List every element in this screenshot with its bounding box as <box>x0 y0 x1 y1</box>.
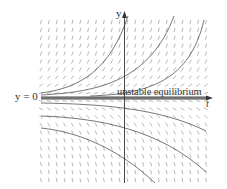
slope-mark <box>197 52 199 56</box>
slope-mark <box>64 44 65 48</box>
slope-mark <box>182 60 184 64</box>
slope-mark <box>95 138 97 142</box>
slope-mark <box>88 170 89 174</box>
slope-mark <box>204 84 207 87</box>
slope-mark <box>142 138 144 142</box>
slope-mark <box>102 115 105 118</box>
slope-mark <box>111 138 113 142</box>
slope-mark <box>174 170 175 174</box>
slope-mark <box>198 170 199 174</box>
slope-mark <box>48 20 49 24</box>
slope-mark <box>157 108 161 110</box>
slope-mark <box>56 44 57 48</box>
slope-mark <box>135 52 137 56</box>
slope-mark <box>188 101 192 102</box>
slope-mark <box>110 76 113 79</box>
slope-mark <box>127 28 128 32</box>
slope-mark <box>56 68 58 72</box>
slope-mark <box>72 138 74 142</box>
slope-mark <box>48 170 49 174</box>
slope-mark <box>80 154 81 158</box>
slope-mark <box>174 28 175 32</box>
slope-mark <box>158 146 159 150</box>
slope-mark <box>72 178 73 182</box>
slope-mark <box>40 28 41 32</box>
slope-mark <box>143 36 144 40</box>
slope-mark <box>119 60 121 64</box>
slope-mark <box>88 162 89 166</box>
slope-mark <box>64 146 65 150</box>
slope-mark <box>119 138 121 142</box>
slope-mark <box>71 123 73 127</box>
slope-mark <box>78 101 82 102</box>
slope-mark <box>190 154 191 158</box>
slope-mark <box>111 36 112 40</box>
slope-mark <box>111 28 112 32</box>
slope-mark <box>150 68 152 72</box>
slope-mark <box>166 131 168 135</box>
slope-mark <box>189 138 191 142</box>
slope-mark <box>95 52 97 56</box>
slope-mark <box>135 146 136 150</box>
slope-mark <box>198 28 199 32</box>
slope-mark <box>143 178 144 182</box>
slope-mark <box>190 146 191 150</box>
slope-mark <box>126 123 128 127</box>
slope-mark <box>126 115 129 118</box>
slope-mark <box>190 162 191 166</box>
slope-mark <box>119 20 120 24</box>
slope-mark <box>103 36 104 40</box>
slope-mark <box>40 44 41 48</box>
slope-mark <box>118 68 120 72</box>
slope-mark <box>103 178 104 182</box>
y-axis-arrow-icon <box>122 11 127 18</box>
slope-mark <box>127 146 128 150</box>
slope-mark <box>40 52 42 56</box>
slope-mark <box>72 28 73 32</box>
slope-mark <box>111 131 113 135</box>
slope-mark <box>150 123 152 127</box>
slope-mark <box>158 20 159 24</box>
slope-mark <box>47 92 51 93</box>
slope-mark <box>158 68 160 72</box>
slope-mark <box>206 20 207 24</box>
slope-mark <box>40 68 42 72</box>
slope-mark <box>166 170 167 174</box>
slope-mark <box>48 131 50 135</box>
slope-mark <box>72 162 73 166</box>
slope-mark <box>56 36 57 40</box>
slope-mark <box>166 138 168 142</box>
slope-mark <box>174 162 175 166</box>
slope-mark <box>172 101 176 102</box>
slope-mark <box>189 131 191 135</box>
slope-mark <box>143 154 144 158</box>
slope-mark <box>40 36 41 40</box>
slope-mark <box>151 170 152 174</box>
slope-mark <box>47 76 50 79</box>
slope-mark <box>166 52 168 56</box>
slope-mark <box>141 108 145 110</box>
slope-mark <box>188 108 192 110</box>
solution-curve-upper-2 <box>41 16 174 95</box>
slope-mark <box>205 131 207 135</box>
slope-mark <box>173 108 177 110</box>
slope-mark <box>41 170 42 174</box>
slope-mark <box>166 60 168 64</box>
slope-mark <box>182 52 184 56</box>
slope-mark <box>87 52 89 56</box>
slope-mark <box>127 178 128 182</box>
slope-mark <box>64 131 66 135</box>
slope-mark <box>127 36 128 40</box>
slope-mark <box>150 44 151 48</box>
slope-mark <box>103 52 105 56</box>
slope-mark <box>117 101 121 102</box>
slope-mark <box>40 123 42 127</box>
slope-mark <box>94 84 97 87</box>
slope-mark <box>158 162 159 166</box>
slope-mark <box>127 44 128 48</box>
slope-mark <box>95 146 96 150</box>
slope-mark <box>166 178 167 182</box>
slope-mark <box>142 123 144 127</box>
slope-mark <box>88 28 89 32</box>
slope-mark <box>158 60 160 64</box>
